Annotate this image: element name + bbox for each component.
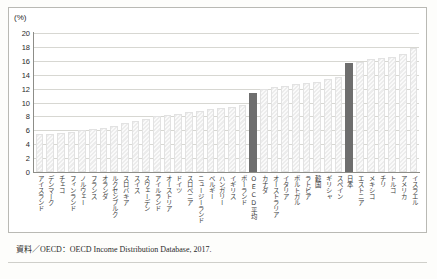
bar: [217, 108, 225, 172]
x-axis-category-label: ギリシャ: [324, 175, 331, 231]
y-axis-tick: 14: [6, 71, 30, 80]
x-axis-category-label: ドイツ: [175, 175, 182, 231]
x-axis-category-label: ベルギー: [207, 175, 214, 231]
x-label-cell: スウェーデン: [141, 175, 152, 231]
bar-cell: [237, 33, 248, 172]
bar-cell: [216, 33, 227, 172]
x-label-cell: イスラエル: [408, 175, 419, 231]
x-label-cell: スイス: [130, 175, 141, 231]
x-label-cell: 日本: [344, 175, 355, 231]
bar: [110, 126, 118, 172]
x-axis-category-label: フィンランド: [68, 175, 75, 231]
x-label-cell: OECD平均: [248, 175, 259, 231]
bar: [249, 93, 257, 172]
bar-cell: [323, 33, 334, 172]
y-axis-tick: 4: [6, 140, 30, 149]
x-axis-category-label: イギリス: [228, 175, 235, 231]
x-label-cell: スペイン: [333, 175, 344, 231]
bar: [281, 86, 289, 172]
bar-cell: [34, 33, 45, 172]
x-label-cell: ポルトガル: [291, 175, 302, 231]
x-label-cell: アイスランド: [34, 175, 45, 231]
x-axis-category-label: ラトビア: [303, 175, 310, 231]
bar-cell: [248, 33, 259, 172]
bar-cell: [141, 33, 152, 172]
x-axis-category-label: デンマーク: [46, 175, 53, 231]
x-axis-category-label: オーストラリア: [271, 175, 278, 231]
bar: [207, 109, 215, 172]
bar: [121, 123, 129, 172]
bar-cell: [98, 33, 109, 172]
x-label-cell: ポーランド: [237, 175, 248, 231]
y-axis-tick: 0: [6, 168, 30, 177]
bar: [46, 134, 54, 172]
x-axis-category-label: スウェーデン: [143, 175, 150, 231]
x-axis-category-label: チェコ: [57, 175, 64, 231]
x-axis-category-label: オランダ: [100, 175, 107, 231]
x-axis-category-labels: アイスランドデンマークチェコフィンランドノルウェーフランスオランダルクセンブルク…: [34, 175, 419, 231]
bar-cell: [109, 33, 120, 172]
y-axis-tick: 18: [6, 43, 30, 52]
bar-cell: [162, 33, 173, 172]
x-axis-line: [33, 172, 420, 173]
x-axis-category-label: エストニア: [356, 175, 363, 231]
bar-cell: [66, 33, 77, 172]
bar: [367, 59, 375, 172]
x-axis-category-label: イスラエル: [410, 175, 417, 231]
bar: [324, 79, 332, 172]
x-axis-category-label: ルクセンブルク: [110, 175, 117, 231]
bar: [142, 119, 150, 173]
bar-cell: [355, 33, 366, 172]
bar: [68, 132, 76, 172]
x-axis-category-label: ハンガリー: [217, 175, 224, 231]
y-axis-tick: 6: [6, 126, 30, 135]
bar: [174, 114, 182, 172]
bar-cell: [397, 33, 408, 172]
x-label-cell: ドイツ: [173, 175, 184, 231]
bar-series: [34, 33, 419, 172]
bar: [153, 116, 161, 172]
bar-cell: [87, 33, 98, 172]
bar-cell: [258, 33, 269, 172]
bar-cell: [173, 33, 184, 172]
bar-cell: [184, 33, 195, 172]
bar: [36, 134, 44, 172]
source-caption: 資料／OECD：OECD Income Distribution Databas…: [16, 243, 212, 254]
x-label-cell: アイルランド: [152, 175, 163, 231]
x-label-cell: イタリア: [280, 175, 291, 231]
x-axis-category-label: ポルトガル: [292, 175, 299, 231]
x-axis-category-label: トルコ: [388, 175, 395, 231]
bottom-divider: [8, 262, 427, 263]
figure-page: (%) 02468101214161820 アイスランドデンマークチェコフィンラ…: [0, 0, 437, 279]
bar: [132, 121, 140, 172]
bar-cell: [130, 33, 141, 172]
y-axis-tick: 8: [6, 112, 30, 121]
x-axis-category-label: カナダ: [260, 175, 267, 231]
bar-cell: [376, 33, 387, 172]
x-label-cell: ノルウェー: [77, 175, 88, 231]
bar-cell: [55, 33, 66, 172]
bar: [196, 111, 204, 172]
bar: [57, 133, 65, 172]
x-label-cell: チリ: [376, 175, 387, 231]
y-axis-unit-label: (%): [14, 13, 26, 22]
x-label-cell: フランス: [87, 175, 98, 231]
x-label-cell: オーストラリア: [269, 175, 280, 231]
x-axis-category-label: ポーランド: [239, 175, 246, 231]
x-label-cell: ハンガリー: [216, 175, 227, 231]
y-axis-tick: 2: [6, 154, 30, 163]
x-label-cell: アメリカ: [397, 175, 408, 231]
bar-cell: [226, 33, 237, 172]
x-label-cell: スロバキア: [120, 175, 131, 231]
x-label-cell: ルクセンブルク: [109, 175, 120, 231]
x-axis-category-label: スペイン: [335, 175, 342, 231]
bar-cell: [408, 33, 419, 172]
x-axis-category-label: オーストリア: [164, 175, 171, 231]
x-label-cell: トルコ: [387, 175, 398, 231]
x-label-cell: ギリシャ: [323, 175, 334, 231]
bar-cell: [280, 33, 291, 172]
x-label-cell: オランダ: [98, 175, 109, 231]
bar: [89, 129, 97, 172]
bar-cell: [77, 33, 88, 172]
bar: [239, 105, 247, 172]
